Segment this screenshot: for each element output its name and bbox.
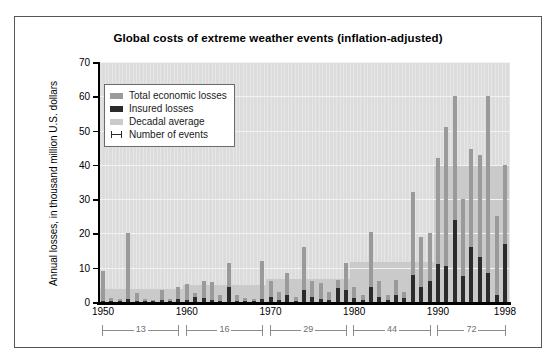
- plot-texture-stripe: [326, 62, 327, 302]
- event-count-value: 72: [464, 324, 478, 334]
- plot-texture-stripe: [308, 62, 309, 302]
- plot-texture-stripe: [284, 62, 285, 302]
- plot-texture-stripe: [257, 62, 258, 302]
- event-count-bracket: 72: [437, 325, 506, 336]
- x-tick-label: 1990: [427, 306, 449, 317]
- bar-insured-losses: [411, 275, 415, 302]
- bracket-cap-left: [102, 325, 103, 336]
- y-tick-mark: [93, 302, 98, 304]
- plot-texture-stripe: [281, 62, 282, 302]
- chart-legend: Total economic lossesInsured lossesDecad…: [104, 84, 235, 147]
- bar-insured-losses: [344, 290, 348, 302]
- bracket-cap-right: [178, 325, 179, 336]
- plot-texture-stripe: [298, 62, 299, 302]
- bar-insured-losses: [486, 273, 490, 302]
- plot-texture-stripe: [271, 62, 272, 302]
- plot-texture-stripe: [274, 62, 275, 302]
- y-tick-mark: [93, 131, 98, 133]
- y-tick-label: 30: [70, 194, 90, 205]
- x-tick-label: 1998: [494, 306, 516, 317]
- bar-total-economic-losses: [260, 261, 264, 302]
- bar-total-economic-losses: [486, 96, 490, 302]
- x-tick-label: 1960: [176, 306, 198, 317]
- y-tick-label: 10: [70, 262, 90, 273]
- bar-insured-losses: [369, 287, 373, 302]
- bar-insured-losses: [285, 295, 289, 302]
- plot-texture-stripe: [322, 62, 323, 302]
- legend-label: Decadal average: [129, 116, 205, 127]
- x-tick-label: 1980: [343, 306, 365, 317]
- y-tick-mark: [93, 233, 98, 235]
- bar-insured-losses: [453, 220, 457, 302]
- error-bar-icon: [110, 131, 123, 138]
- event-count-bracket: 29: [270, 325, 347, 336]
- bracket-cap-left: [353, 325, 354, 336]
- legend-item-3: Number of events: [110, 128, 227, 141]
- plot-texture-stripe: [291, 62, 292, 302]
- bar-total-economic-losses: [126, 233, 130, 302]
- event-count-bracket: 16: [186, 325, 263, 336]
- event-count-value: 29: [301, 324, 315, 334]
- legend-label: Total economic losses: [129, 90, 227, 101]
- x-tick-label: 1950: [92, 306, 114, 317]
- y-tick-label: 60: [70, 91, 90, 102]
- legend-swatch: [110, 93, 123, 99]
- bar-insured-losses: [419, 287, 423, 302]
- plot-texture-stripe: [253, 62, 254, 302]
- bar-insured-losses: [336, 288, 340, 302]
- y-tick-label: 50: [70, 125, 90, 136]
- event-count-value: 44: [385, 324, 399, 334]
- plot-texture-stripe: [239, 62, 240, 302]
- gridline: [98, 62, 510, 63]
- legend-label: Number of events: [129, 129, 208, 140]
- bar-insured-losses: [394, 295, 398, 302]
- bar-insured-losses: [428, 281, 432, 302]
- bracket-cap-left: [186, 325, 187, 336]
- legend-item-0: Total economic losses: [110, 89, 227, 102]
- x-axis-line: [97, 302, 511, 305]
- plot-texture-stripe: [288, 62, 289, 302]
- plot-texture-stripe: [236, 62, 237, 302]
- bracket-cap-right: [430, 325, 431, 336]
- bracket-cap-right: [262, 325, 263, 336]
- y-tick-label: 20: [70, 228, 90, 239]
- plot-texture-stripe: [277, 62, 278, 302]
- plot-texture-stripe: [336, 62, 337, 302]
- legend-label: Insured losses: [129, 103, 193, 114]
- bar-insured-losses: [461, 276, 465, 302]
- y-axis-line: [98, 62, 100, 303]
- plot-texture-stripe: [319, 62, 320, 302]
- event-count-value: 13: [134, 324, 148, 334]
- legend-item-1: Insured losses: [110, 102, 227, 115]
- bar-insured-losses: [436, 264, 440, 302]
- y-tick-mark: [93, 165, 98, 167]
- bar-insured-losses: [503, 244, 507, 302]
- y-tick-mark: [93, 62, 98, 64]
- plot-texture-stripe: [340, 62, 341, 302]
- y-tick-mark: [93, 268, 98, 270]
- legend-item-2: Decadal average: [110, 115, 227, 128]
- y-tick-label: 70: [70, 57, 90, 68]
- y-axis-label: Annual losses, in thousand million U.S. …: [48, 69, 59, 299]
- event-count-bracket: 44: [353, 325, 430, 336]
- y-tick-label: 0: [70, 297, 90, 308]
- bracket-cap-left: [270, 325, 271, 336]
- plot-texture-stripe: [250, 62, 251, 302]
- plot-texture-stripe: [243, 62, 244, 302]
- bar-insured-losses: [478, 257, 482, 302]
- bracket-cap-right: [505, 325, 506, 336]
- bar-total-economic-losses: [495, 216, 499, 302]
- bracket-cap-right: [346, 325, 347, 336]
- event-count-bracket: 13: [102, 325, 179, 336]
- chart-figure: Global costs of extreme weather events (…: [0, 0, 558, 359]
- legend-swatch: [110, 106, 123, 112]
- plot-texture-stripe: [246, 62, 247, 302]
- legend-swatch: [110, 119, 123, 125]
- bracket-cap-left: [437, 325, 438, 336]
- bar-insured-losses: [495, 295, 499, 302]
- event-count-value: 16: [217, 324, 231, 334]
- bar-total-economic-losses: [101, 271, 105, 302]
- bar-insured-losses: [444, 266, 448, 302]
- y-tick-mark: [93, 96, 98, 98]
- x-tick-label: 1970: [259, 306, 281, 317]
